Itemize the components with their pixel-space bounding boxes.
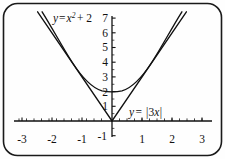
parabola-label-exponent: 2	[72, 11, 76, 20]
y-tick-label-6: 6	[102, 27, 108, 39]
x-tick-label-3: 3	[199, 133, 205, 145]
y-tick-label-3: 3	[102, 71, 108, 83]
x-tick-label--3: -3	[17, 133, 27, 145]
parabola-label-y: y	[52, 12, 59, 25]
x-tick-label-2: 2	[169, 133, 175, 145]
parabola-label-equals: =	[59, 12, 66, 24]
x-tick-label--1: -1	[77, 133, 87, 145]
graph-figure: -3 -2 -1 1 2 3 7 6 5 4 3 2 1 -1 y=x2+ 2	[0, 0, 225, 159]
y-tick-label-7: 7	[102, 12, 108, 24]
y-tick-label-5: 5	[102, 41, 108, 53]
y-tick-label-4: 4	[102, 56, 108, 68]
x-tick-label--2: -2	[47, 133, 57, 145]
abs-label-equals: =	[136, 106, 143, 118]
parabola-label-plus-two: + 2	[77, 12, 92, 24]
abs-label-y: y	[128, 106, 135, 119]
y-tick-label--1: -1	[97, 130, 107, 142]
y-tick-label-2: 2	[102, 86, 108, 98]
y-tick-label-1: 1	[102, 100, 108, 112]
x-tick-label-1: 1	[139, 133, 145, 145]
abs-label-bar-right: |	[160, 106, 162, 119]
graph-canvas: -3 -2 -1 1 2 3 7 6 5 4 3 2 1 -1 y=x2+ 2	[0, 0, 225, 159]
